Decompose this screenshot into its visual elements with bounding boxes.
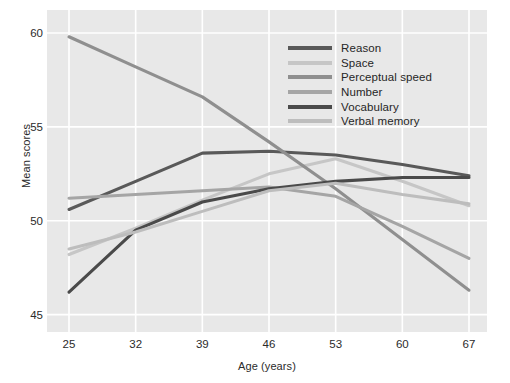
x-axis-title: Age (years): [47, 360, 487, 372]
legend-item[interactable]: Reason: [288, 41, 478, 56]
x-tick-label: 60: [380, 338, 424, 350]
chart-figure: Mean scores Age (years) 45505560 2532394…: [0, 0, 510, 383]
x-tick-label: 67: [447, 338, 491, 350]
legend-color-swatch: [288, 46, 332, 50]
legend-label: Reason: [341, 42, 381, 54]
legend-color-swatch: [288, 105, 332, 109]
y-axis-tick-labels: 45505560: [0, 0, 43, 383]
y-tick-label: 50: [9, 215, 43, 227]
legend-label: Number: [341, 86, 383, 98]
x-tick-label: 39: [180, 338, 224, 350]
legend-label: Verbal memory: [341, 115, 420, 127]
legend-color-swatch: [288, 90, 332, 94]
y-tick-label: 55: [9, 121, 43, 133]
legend-color-swatch: [288, 119, 332, 123]
legend-label: Vocabulary: [341, 101, 399, 113]
x-tick-label: 32: [114, 338, 158, 350]
legend-item[interactable]: Space: [288, 56, 478, 71]
legend-color-swatch: [288, 61, 332, 65]
legend-label: Space: [341, 57, 374, 69]
legend-label: Perceptual speed: [341, 71, 432, 83]
legend-item[interactable]: Perceptual speed: [288, 70, 478, 85]
x-tick-label: 25: [47, 338, 91, 350]
y-tick-label: 60: [9, 27, 43, 39]
x-tick-label: 53: [314, 338, 358, 350]
legend-item[interactable]: Number: [288, 85, 478, 100]
legend-item[interactable]: Vocabulary: [288, 99, 478, 114]
legend-item[interactable]: Verbal memory: [288, 114, 478, 129]
y-tick-label: 45: [9, 309, 43, 321]
chart-legend: ReasonSpacePerceptual speedNumberVocabul…: [288, 41, 478, 129]
x-tick-label: 46: [247, 338, 291, 350]
legend-color-swatch: [288, 75, 332, 79]
